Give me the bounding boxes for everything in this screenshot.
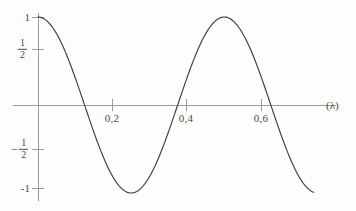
chart-figure: 1 1 2 − 1 2 -1 0,2 0,4 0,6 (λ) bbox=[0, 0, 356, 211]
x-tick-label-0-4: 0,4 bbox=[179, 113, 193, 124]
y-tick-label-one-half: 1 2 bbox=[18, 38, 27, 60]
chart-plot-area bbox=[0, 0, 356, 211]
x-axis-label-lambda: (λ) bbox=[326, 99, 339, 111]
fraction-one-half: 1 2 bbox=[18, 38, 27, 60]
minus-sign: − bbox=[11, 143, 18, 155]
y-tick-label-neg-one-half: − 1 2 bbox=[11, 138, 28, 160]
x-tick-label-0-2: 0,2 bbox=[105, 113, 119, 124]
fraction-one-half: 1 2 bbox=[19, 138, 28, 160]
x-tick-label-0-6: 0,6 bbox=[254, 113, 268, 124]
y-tick-label-1: 1 bbox=[18, 12, 30, 23]
y-tick-label-neg-1: -1 bbox=[12, 183, 30, 194]
